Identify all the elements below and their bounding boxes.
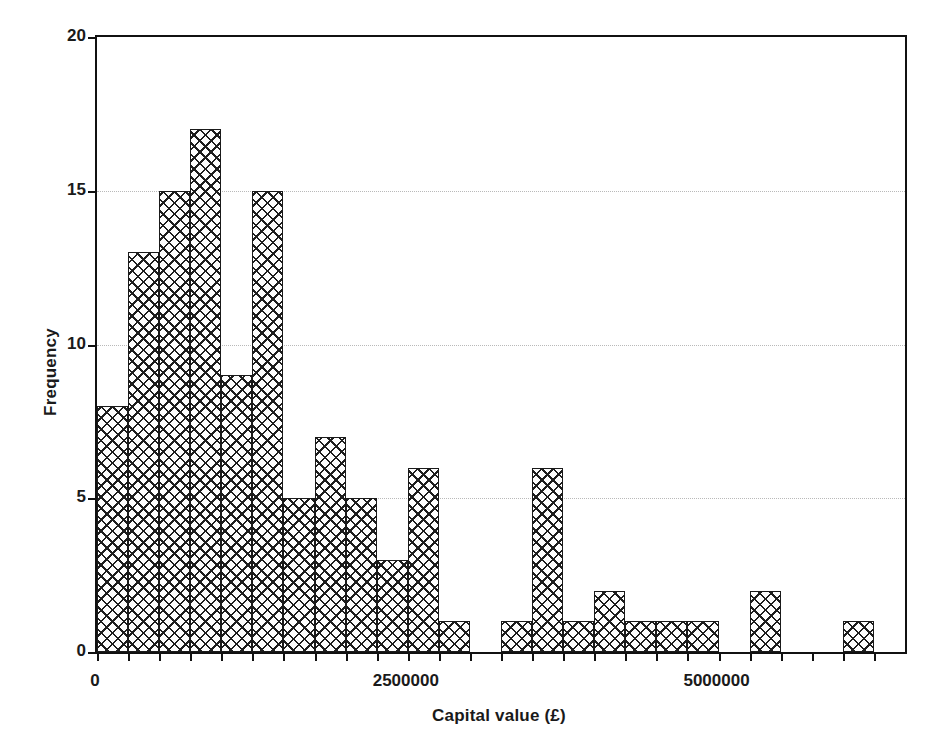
y-tick-mark-0 (88, 652, 97, 654)
x-tick-label-5000000: 5000000 (683, 672, 749, 689)
y-tick-mark-15 (88, 191, 97, 193)
plot-area (95, 35, 907, 654)
x-tick-label-2500000: 2500000 (373, 672, 439, 689)
y-tick-label-5: 5 (40, 488, 86, 505)
histogram-figure: Frequency 05101520 025000005000000 Capit… (0, 0, 927, 744)
y-tick-label-20: 20 (40, 27, 86, 44)
x-tick-mark (656, 652, 658, 661)
axis-ticks (97, 37, 905, 652)
x-tick-mark (377, 652, 379, 661)
x-tick-mark (470, 652, 472, 661)
x-tick-mark (812, 652, 814, 661)
x-tick-mark (687, 652, 689, 661)
x-tick-mark (625, 652, 627, 661)
x-tick-mark (594, 652, 596, 661)
y-axis-tick-labels: 05101520 (20, 0, 86, 744)
x-tick-mark (190, 652, 192, 661)
x-tick-mark (221, 652, 223, 661)
x-tick-mark (408, 652, 410, 661)
x-tick-mark (315, 652, 317, 661)
x-tick-mark (128, 652, 130, 661)
x-tick-mark (283, 652, 285, 661)
x-tick-mark (874, 652, 876, 661)
y-tick-mark-20 (88, 37, 97, 39)
x-tick-mark (843, 652, 845, 661)
x-tick-mark (97, 652, 99, 661)
x-tick-mark (719, 652, 721, 661)
y-tick-label-0: 0 (40, 642, 86, 659)
x-tick-label-0: 0 (90, 672, 99, 689)
x-tick-mark (346, 652, 348, 661)
x-tick-mark (159, 652, 161, 661)
y-tick-mark-10 (88, 345, 97, 347)
y-tick-label-15: 15 (40, 180, 86, 197)
x-tick-mark (781, 652, 783, 661)
y-tick-mark-5 (88, 498, 97, 500)
x-tick-mark (563, 652, 565, 661)
y-tick-label-10: 10 (40, 334, 86, 351)
x-axis-title: Capital value (£) (95, 706, 903, 726)
x-tick-mark (252, 652, 254, 661)
x-tick-mark (532, 652, 534, 661)
x-tick-mark (439, 652, 441, 661)
x-tick-mark (501, 652, 503, 661)
x-tick-mark (750, 652, 752, 661)
